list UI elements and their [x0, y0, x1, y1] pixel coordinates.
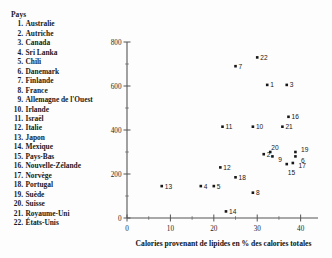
data-point-marker[interactable]: [160, 185, 163, 188]
data-point-marker[interactable]: [234, 176, 237, 179]
data-point-marker[interactable]: [294, 155, 297, 158]
scatter-plot: 0200400600800010203040 1Australie — 32.3…: [0, 0, 332, 258]
data-point-marker[interactable]: [199, 185, 202, 188]
data-point-marker[interactable]: [285, 163, 288, 166]
data-point-label: 11: [226, 123, 233, 130]
data-point-marker[interactable]: [252, 125, 255, 128]
data-point-marker[interactable]: [285, 84, 288, 87]
y-axis-tick-label: 0: [118, 215, 122, 223]
data-point[interactable]: 18Portugal — 25%, 185: [234, 174, 246, 181]
x-axis-title: Calories provenant de lipides en % des c…: [136, 239, 312, 248]
data-point-marker[interactable]: [219, 166, 222, 169]
data-point-marker[interactable]: [221, 125, 224, 128]
data-point[interactable]: 8France — 29%, 115: [252, 189, 260, 196]
data-point[interactable]: 16Nouvelle-Zélande — 37.2%, 460: [287, 113, 299, 120]
data-point-marker[interactable]: [266, 84, 269, 87]
data-point[interactable]: 3Canada — 36.8%, 605: [285, 81, 293, 88]
x-axis-tick-label: 20: [210, 225, 218, 233]
data-point[interactable]: 21Royaume-Uni — 35.8%, 415: [281, 123, 293, 130]
data-point-marker[interactable]: [262, 153, 265, 156]
data-point-label: 16: [291, 113, 299, 120]
y-axis-tick-label: 200: [111, 171, 122, 179]
data-point-label: 21: [285, 123, 293, 130]
x-axis-tick-label: 30: [254, 225, 262, 233]
data-point[interactable]: 20Suisse — 33%, 300: [269, 144, 279, 153]
data-point[interactable]: 9Allemagne de l'Ouest — 33.5%, 280: [271, 155, 282, 163]
data-point-marker[interactable]: [252, 191, 255, 194]
data-point[interactable]: 13Japon — 8%, 145: [160, 183, 172, 190]
data-point-label: 4: [204, 183, 208, 190]
data-point-label: 12: [223, 164, 231, 171]
data-point-marker[interactable]: [234, 65, 237, 68]
data-point-label: 5: [217, 183, 221, 190]
data-point[interactable]: 14Mexique — 22.8%, 30: [225, 208, 237, 215]
data-point-label: 17: [299, 162, 307, 169]
data-point[interactable]: 1Australie — 32.3%, 605: [266, 81, 274, 88]
y-axis-tick-label: 400: [111, 127, 122, 135]
data-point[interactable]: 5Chili — 20%, 145: [213, 183, 221, 190]
tick-labels-group: 0200400600800010203040: [111, 39, 305, 233]
axes-group: [124, 42, 319, 222]
data-point-marker[interactable]: [225, 210, 228, 213]
data-point-label: 13: [165, 183, 173, 190]
data-point-marker[interactable]: [213, 185, 216, 188]
data-points-group: 1Australie — 32.3%, 6052Autriche — 31.5%…: [160, 54, 308, 215]
data-point[interactable]: 15Pays-Bas — 36.8%, 245: [285, 163, 295, 176]
data-point-marker[interactable]: [287, 116, 290, 119]
data-point-label: 7: [239, 63, 243, 70]
data-point-label: 22: [260, 54, 268, 61]
data-point-marker[interactable]: [271, 155, 274, 158]
data-point-label: 10: [256, 123, 264, 130]
data-point-label: 3: [290, 81, 294, 88]
plot-canvas: 0200400600800010203040 1Australie — 32.3…: [0, 0, 332, 258]
y-axis-tick-label: 600: [111, 83, 122, 91]
data-point-label: 1: [270, 81, 274, 88]
data-point[interactable]: 11Israël — 22%, 415: [221, 123, 232, 130]
data-point-label: 14: [229, 208, 237, 215]
data-point[interactable]: 19Suède — 38.8%, 300: [294, 146, 309, 153]
data-point[interactable]: 10Irlande — 29%, 415: [252, 123, 264, 130]
data-point[interactable]: 7Finlande — 25%, 690: [234, 63, 242, 70]
data-point-marker[interactable]: [256, 56, 259, 59]
data-point[interactable]: 4Sri Lanka — 17%, 145: [199, 183, 207, 190]
data-point-label: 9: [278, 156, 282, 163]
x-axis-tick-label: 40: [297, 225, 305, 233]
x-axis-tick-label: 0: [125, 225, 129, 233]
data-point-label: 19: [301, 146, 309, 153]
y-axis-tick-label: 800: [111, 39, 122, 47]
data-point-marker[interactable]: [292, 162, 295, 165]
data-point-label: 15: [288, 169, 296, 176]
data-point-marker[interactable]: [281, 125, 284, 128]
data-point[interactable]: 22États-Unis — 30%, 730: [256, 54, 268, 61]
chart-figure: Pays 1.Australie 2.Autriche 3.Canada 4.S…: [0, 0, 332, 258]
data-point-label: 18: [239, 174, 247, 181]
x-axis-tick-label: 10: [167, 225, 175, 233]
data-point-label: 8: [256, 189, 260, 196]
data-point-marker[interactable]: [294, 151, 297, 154]
data-point-label: 20: [271, 144, 279, 151]
data-point[interactable]: 12Italie — 21.5%, 230: [219, 164, 231, 171]
